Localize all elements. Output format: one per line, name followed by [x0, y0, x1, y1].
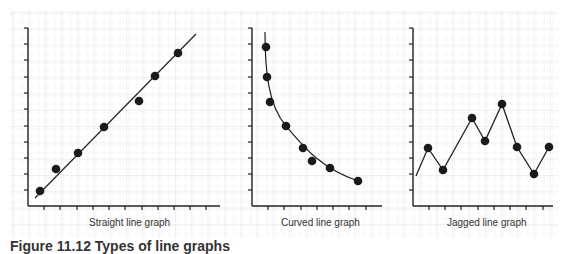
- panel-label-jagged: Jagged line graph: [447, 217, 527, 228]
- figure-caption: Figure 11.12 Types of line graphs: [10, 239, 230, 253]
- panel-label-straight: Straight line graph: [89, 217, 170, 228]
- panel-label-curved: Curved line graph: [281, 217, 360, 228]
